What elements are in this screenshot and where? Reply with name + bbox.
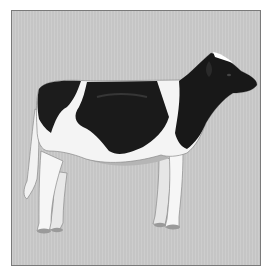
- image-frame: Illustration of a black and white Holste…: [11, 10, 261, 266]
- hoof: [51, 228, 63, 232]
- hoof: [37, 229, 51, 234]
- hoof: [154, 223, 166, 227]
- black-patch-shoulder: [175, 53, 257, 149]
- cow-illustration: [12, 11, 262, 267]
- hoof: [166, 225, 180, 230]
- cow-eye: [227, 74, 231, 76]
